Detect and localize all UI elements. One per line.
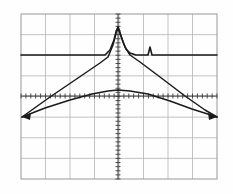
trace-arrowheads xyxy=(22,113,217,120)
graticule-plot xyxy=(0,0,233,194)
screenshot-root xyxy=(0,0,233,194)
